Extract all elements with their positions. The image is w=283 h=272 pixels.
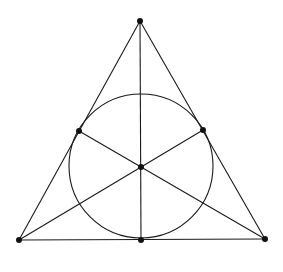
fano-plane-diagram <box>0 0 283 272</box>
point-left-mid <box>76 128 82 134</box>
point-top <box>137 18 143 24</box>
point-bottom-right <box>262 236 268 242</box>
point-bottom-left <box>16 237 22 243</box>
point-center <box>138 164 144 170</box>
point-bottom-mid <box>138 237 144 243</box>
point-right-mid <box>200 127 206 133</box>
